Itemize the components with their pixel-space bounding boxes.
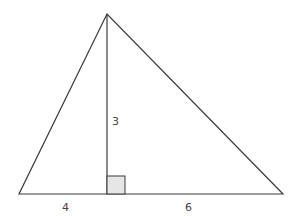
right-base-label: 6 (185, 201, 192, 214)
right-angle-marker (107, 176, 125, 194)
triangle-diagram: 3 4 6 (0, 0, 301, 216)
triangle (19, 14, 283, 194)
height-label: 3 (112, 115, 119, 128)
left-base-label: 4 (62, 201, 69, 214)
